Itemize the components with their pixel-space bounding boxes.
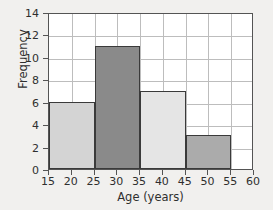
x-tick-label: 20 [59, 176, 83, 187]
x-axis-title: Age (years) [48, 190, 253, 204]
y-tick-mark [43, 35, 48, 36]
x-tick-label: 40 [150, 176, 174, 187]
y-tick-mark [43, 13, 48, 14]
x-tick-label: 45 [173, 176, 197, 187]
y-tick-label: 6 [32, 98, 39, 109]
x-tick-label: 35 [127, 176, 151, 187]
histogram-bar [186, 135, 232, 169]
y-tick-mark [43, 125, 48, 126]
y-tick-mark [43, 103, 48, 104]
y-tick-mark [43, 80, 48, 81]
x-tick-label: 60 [241, 176, 265, 187]
histogram-bar [49, 102, 95, 169]
y-tick-label: 4 [32, 120, 39, 131]
histogram-figure: 02468101214 15202530354045505560 Age (ye… [0, 0, 273, 210]
histogram-bar [140, 91, 186, 170]
y-tick-mark [43, 58, 48, 59]
x-tick-label: 55 [218, 176, 242, 187]
x-tick-label: 30 [104, 176, 128, 187]
y-tick-label: 2 [32, 143, 39, 154]
histogram-bar [95, 46, 141, 169]
x-tick-label: 15 [36, 176, 60, 187]
bars-group [49, 14, 252, 169]
y-axis-title: Frequency [16, 0, 30, 119]
plot-area [48, 13, 253, 170]
y-tick-label: 8 [32, 75, 39, 86]
y-tick-mark [43, 148, 48, 149]
x-tick-label: 25 [82, 176, 106, 187]
x-tick-label: 50 [195, 176, 219, 187]
y-tick-label: 0 [32, 165, 39, 176]
